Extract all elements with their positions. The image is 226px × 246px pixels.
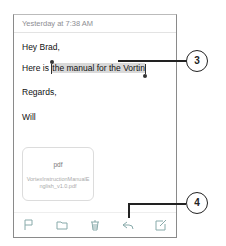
greeting: Hey Brad, xyxy=(22,42,60,52)
closing: Regards, xyxy=(22,87,57,97)
selection-end-handle[interactable] xyxy=(145,64,146,74)
trash-icon[interactable] xyxy=(88,218,102,232)
callout-leader-line xyxy=(118,60,188,62)
compose-icon[interactable] xyxy=(154,218,168,232)
callout-leader-line xyxy=(128,203,186,205)
signature: Will xyxy=(22,112,36,122)
body-line[interactable]: Here is the manual for the Vortin xyxy=(22,63,146,74)
callout-3: 3 xyxy=(186,50,208,72)
callout-leader-line xyxy=(128,203,130,218)
attachment-filename: VortexInstructionManualEnglish_v1.0.pdf xyxy=(23,176,93,190)
selected-text[interactable]: the manual for the Vortin xyxy=(52,63,145,73)
flag-icon[interactable] xyxy=(22,218,36,232)
pdf-attachment[interactable]: pdf VortexInstructionManualEnglish_v1.0.… xyxy=(22,147,94,201)
selection-start-handle[interactable] xyxy=(51,64,52,74)
reply-icon[interactable] xyxy=(121,218,135,232)
callout-4: 4 xyxy=(186,192,208,214)
bottom-toolbar xyxy=(14,212,176,237)
divider xyxy=(14,32,176,33)
timestamp: Yesterday at 7:38 AM xyxy=(22,19,93,28)
folder-icon[interactable] xyxy=(55,218,69,232)
attachment-type: pdf xyxy=(23,161,93,168)
body-prefix: Here is xyxy=(22,63,51,73)
